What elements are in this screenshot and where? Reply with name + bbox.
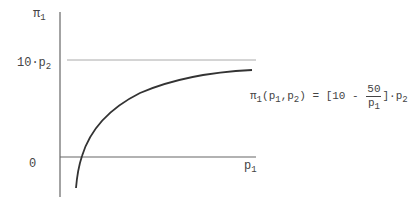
fraction-den-sub: 1 (374, 102, 379, 112)
fraction-denominator: p1 (366, 97, 381, 109)
formula-arg-p1-sub: 1 (275, 95, 280, 105)
zero-tick-label: 0 (29, 158, 36, 170)
asymptote-prefix: 10·p (17, 56, 46, 70)
formula-pi: π (250, 90, 257, 102)
formula-arg-p2-sub: 2 (294, 95, 299, 105)
formula-tail: ]·p (382, 90, 402, 102)
x-label-sub: 1 (251, 165, 256, 175)
formula-eq: = [10 - (306, 90, 365, 102)
fraction-numerator: 50 (366, 84, 381, 97)
formula-fraction: 50p1 (366, 84, 381, 109)
profit-curve (76, 70, 252, 188)
formula-close-paren: ) (299, 90, 306, 102)
asymptote-sub: 2 (46, 62, 51, 72)
formula-tail-sub: 2 (402, 95, 407, 105)
y-label-sub: 1 (40, 13, 45, 23)
asymptote-tick-label: 10·p2 (17, 57, 51, 69)
y-axis-label: π1 (33, 8, 46, 20)
x-axis-label: p1 (244, 160, 257, 172)
formula-pi-sub: 1 (257, 95, 262, 105)
profit-formula: π1(p1,p2) = [10 - 50p1]·p2 (250, 84, 408, 109)
formula-arg-sep: ,p (281, 90, 294, 102)
